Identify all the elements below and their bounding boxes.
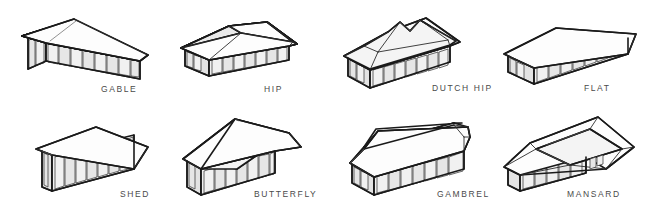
item-label-flat: FLAT <box>584 83 611 93</box>
diagram-item-mansard: MANSARD <box>494 107 659 214</box>
diagram-item-shed: SHED <box>0 107 165 214</box>
item-label-hip: HIP <box>264 84 283 94</box>
item-label-mansard: MANSARD <box>567 189 621 199</box>
item-label-butterfly: BUTTERFLY <box>254 189 317 199</box>
item-label-gambrel: GAMBREL <box>437 189 490 199</box>
flat-illustration <box>494 0 659 107</box>
diagram-item-butterfly: BUTTERFLY <box>165 107 330 214</box>
gable-illustration <box>0 0 165 107</box>
item-label-gable: GABLE <box>101 84 137 94</box>
diagram-item-flat: FLAT <box>494 0 659 107</box>
item-label-dutch-hip: DUTCH HIP <box>432 83 493 93</box>
diagram-item-hip: HIP <box>165 0 330 107</box>
diagram-item-dutch-hip: DUTCH HIP <box>330 0 495 107</box>
item-label-shed: SHED <box>120 189 150 199</box>
roof-types-diagram: GABLE <box>0 0 659 214</box>
diagram-item-gambrel: GAMBREL <box>330 107 495 214</box>
diagram-item-gable: GABLE <box>0 0 165 107</box>
hip-illustration <box>165 0 330 107</box>
